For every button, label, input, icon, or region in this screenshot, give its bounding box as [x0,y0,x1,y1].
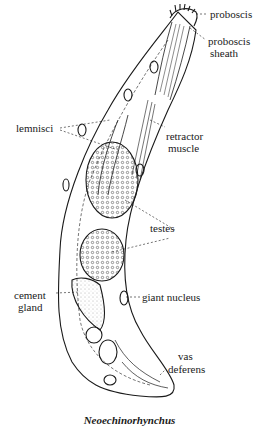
testis-1 [86,142,138,218]
figure-caption: Neoechinorhynchus [0,414,259,426]
label-vas-2: deferens [168,364,205,375]
label-giant-nucleus: giant nucleus [142,292,200,303]
label-retractor-2: muscle [168,143,199,154]
label-proboscis-sheath-2: sheath [210,48,238,59]
label-cement-2: gland [18,302,42,313]
label-testes: testes [150,223,174,234]
label-cement-1: cement [14,290,46,301]
label-lemnisci: lemnisci [16,123,53,134]
testis-2 [80,229,124,281]
proboscis-sheath [155,22,190,100]
label-proboscis-sheath-1: proboscis [208,36,250,47]
label-retractor-1: retractor [166,131,203,142]
giant-nucleus [120,291,128,305]
label-vas-1: vas [178,351,193,362]
vas-deferens [115,340,168,388]
label-proboscis: proboscis [210,9,252,20]
cement-gland [72,278,105,330]
worm-illustration [0,0,259,437]
